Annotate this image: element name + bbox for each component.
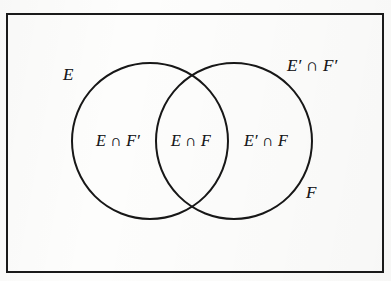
region-intersection-label: E ∩ F [171,133,211,149]
region-e-only-label: E ∩ F′ [96,133,140,149]
set-f-label: F [306,184,317,201]
region-f-only-label: E′ ∩ F [244,133,288,149]
region-neither-label: E′ ∩ F′ [287,57,337,74]
set-e-label: E [63,66,74,83]
venn-diagram-figure: E F E′ ∩ F′ E ∩ F′ E ∩ F E′ ∩ F [0,0,391,281]
